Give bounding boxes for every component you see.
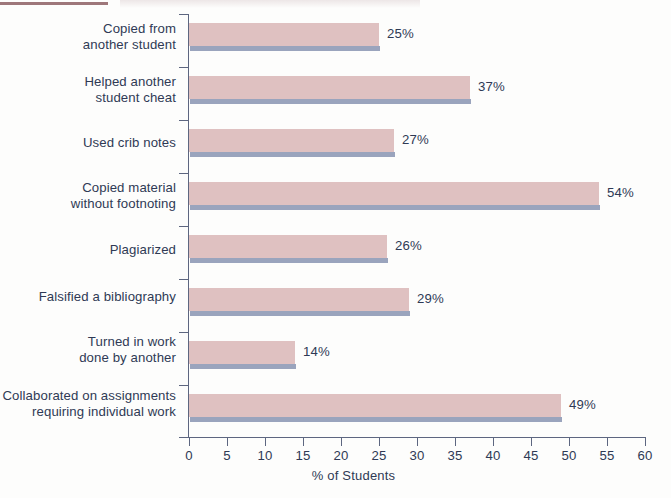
bar-5-shadow	[190, 311, 410, 316]
x-axis-tick	[645, 438, 646, 446]
bar-4-shadow	[190, 258, 388, 263]
x-axis-tick-label: 60	[637, 448, 652, 463]
bar-5-value: 29%	[417, 291, 444, 306]
x-axis-tick-label: 0	[185, 448, 193, 463]
x-axis-tick	[607, 438, 608, 446]
y-axis-tick	[179, 226, 188, 227]
bar-5	[189, 288, 409, 311]
category-label-6: Turned in work done by another	[0, 334, 176, 365]
bar-0-value: 25%	[387, 26, 414, 41]
x-axis-tick	[417, 438, 418, 446]
bar-7	[189, 394, 561, 417]
x-axis-tick	[569, 438, 570, 446]
bar-row: 27%	[189, 129, 394, 152]
x-axis-title-text: % of Students	[312, 468, 396, 483]
bar-row: 37%	[189, 76, 470, 99]
x-axis-tick-label: 35	[447, 448, 462, 463]
x-axis-tick-label: 20	[333, 448, 348, 463]
y-axis-line	[188, 14, 189, 437]
x-axis-tick-label: 50	[561, 448, 576, 463]
bar-row: 25%	[189, 23, 379, 46]
bar-row: 14%	[189, 341, 295, 364]
bar-6-value: 14%	[303, 344, 330, 359]
bar-1	[189, 76, 470, 99]
x-axis-tick	[265, 438, 266, 446]
x-axis-tick	[227, 438, 228, 446]
x-axis-tick-label: 10	[257, 448, 272, 463]
bar-0	[189, 23, 379, 46]
y-axis-tick	[179, 279, 188, 280]
bar-1-shadow	[190, 99, 471, 104]
x-axis-tick-label: 45	[523, 448, 538, 463]
bar-7-shadow	[190, 417, 562, 422]
bar-0-shadow	[190, 46, 380, 51]
bar-4	[189, 235, 387, 258]
category-label-1: Helped another student cheat	[0, 74, 176, 105]
category-label-5: Falsified a bibliography	[0, 289, 176, 305]
category-label-2: Used crib notes	[0, 135, 176, 151]
bar-2	[189, 129, 394, 152]
bar-3	[189, 182, 599, 205]
y-axis-tick	[179, 332, 188, 333]
y-axis-tick	[179, 437, 188, 438]
x-axis-tick-label: 55	[599, 448, 614, 463]
bar-3-value: 54%	[607, 185, 634, 200]
x-axis-tick-label: 15	[295, 448, 310, 463]
x-axis-tick	[493, 438, 494, 446]
cropped-title-rule	[0, 2, 108, 5]
bar-row: 49%	[189, 394, 561, 417]
x-axis-tick	[455, 438, 456, 446]
category-label-3: Copied material without footnoting	[0, 180, 176, 211]
bar-6	[189, 341, 295, 364]
x-axis-tick-label: 30	[409, 448, 424, 463]
bar-1-value: 37%	[478, 79, 505, 94]
x-axis-title: % of Students	[0, 468, 671, 483]
x-axis-tick	[189, 438, 190, 446]
y-axis-tick	[179, 173, 188, 174]
bar-row: 54%	[189, 182, 599, 205]
bar-row: 26%	[189, 235, 387, 258]
bar-2-value: 27%	[402, 132, 429, 147]
x-axis-tick	[303, 438, 304, 446]
bar-4-value: 26%	[395, 238, 422, 253]
x-axis-tick	[341, 438, 342, 446]
cropped-title-text-remnant	[120, 0, 420, 8]
bar-row: 29%	[189, 288, 409, 311]
category-label-0: Copied from another student	[0, 21, 176, 52]
bar-3-shadow	[190, 205, 600, 210]
bar-7-value: 49%	[569, 397, 596, 412]
x-axis-tick-label: 25	[371, 448, 386, 463]
y-axis-tick	[179, 67, 188, 68]
y-axis-tick	[179, 14, 188, 15]
category-label-7: Collaborated on assignments requiring in…	[0, 388, 176, 419]
bar-chart: Copied from another student Helped anoth…	[0, 0, 671, 498]
bar-6-shadow	[190, 364, 296, 369]
bar-2-shadow	[190, 152, 395, 157]
x-axis-tick	[531, 438, 532, 446]
x-axis-tick-label: 5	[223, 448, 231, 463]
y-axis-tick	[179, 385, 188, 386]
y-axis-tick	[179, 120, 188, 121]
category-label-4: Plagiarized	[0, 242, 176, 258]
x-axis-tick	[379, 438, 380, 446]
x-axis-tick-label: 40	[485, 448, 500, 463]
